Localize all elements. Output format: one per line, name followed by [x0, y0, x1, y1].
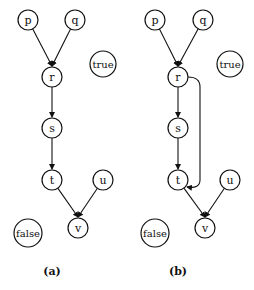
caption-b: (b): [169, 265, 187, 278]
caption-a: (a): [43, 265, 61, 278]
node-q: q: [193, 10, 213, 30]
edge-u-v: [205, 188, 224, 217]
graph-svg: pqrstuvtruefalsepqrstuvtruefalse (a)(b): [0, 0, 254, 290]
node-label: true: [92, 59, 113, 70]
node-label: s: [49, 122, 55, 135]
node-p: p: [18, 10, 38, 30]
edge-r-t: [187, 77, 200, 187]
node-label: q: [71, 14, 78, 27]
node-label: s: [175, 122, 181, 135]
node-label: q: [199, 14, 206, 27]
diagram-canvas: pqrstuvtruefalsepqrstuvtruefalse (a)(b): [0, 0, 254, 290]
node-label: u: [226, 174, 233, 187]
node-s: s: [168, 118, 188, 138]
node-r: r: [42, 67, 62, 87]
node-q: q: [65, 10, 85, 30]
node-label: v: [74, 222, 82, 235]
edge-t-v: [58, 188, 78, 217]
node-p: p: [145, 10, 165, 30]
edge-t-v: [184, 188, 205, 217]
node-label: p: [151, 14, 158, 27]
node-u: u: [220, 170, 240, 190]
node-label: v: [201, 222, 209, 235]
edge-q-r: [52, 29, 71, 66]
node-false: false: [14, 219, 42, 247]
node-true: true: [90, 51, 116, 77]
node-v: v: [195, 218, 215, 238]
edge-q-r: [178, 29, 198, 66]
node-false: false: [141, 219, 169, 247]
node-v: v: [68, 218, 88, 238]
node-label: p: [24, 14, 31, 27]
node-true: true: [217, 51, 243, 77]
node-t: t: [168, 170, 188, 190]
node-label: t: [50, 174, 55, 187]
edge-p-r: [159, 29, 178, 66]
node-label: false: [16, 228, 40, 239]
node-r: r: [168, 67, 188, 87]
node-s: s: [42, 118, 62, 138]
node-t: t: [42, 170, 62, 190]
edge-p-r: [33, 29, 52, 66]
node-label: r: [175, 71, 181, 84]
node-u: u: [93, 170, 113, 190]
node-label: u: [99, 174, 106, 187]
node-label: false: [143, 228, 167, 239]
node-label: r: [49, 71, 55, 84]
node-label: true: [219, 59, 240, 70]
node-label: t: [176, 174, 181, 187]
edge-u-v: [78, 188, 97, 217]
